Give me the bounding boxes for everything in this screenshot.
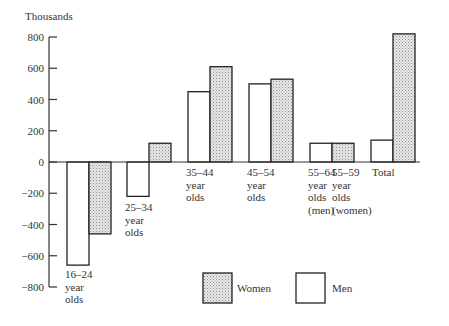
- women-bar: [89, 162, 111, 234]
- men-bar: [310, 143, 332, 162]
- x-category-label: 35–44yearolds: [186, 166, 214, 203]
- legend-label-men: Men: [332, 282, 353, 294]
- y-axis-label: Thousands: [25, 10, 73, 22]
- bars: [67, 34, 415, 265]
- y-tick-label: 800: [28, 31, 45, 43]
- x-category-label: 45–54yearolds: [247, 166, 275, 203]
- x-category-label: 25–34yearolds: [125, 201, 153, 238]
- men-bar: [127, 162, 149, 196]
- y-tick-label: 200: [28, 125, 45, 137]
- women-bar: [149, 143, 171, 162]
- y-tick-label: −400: [21, 219, 44, 231]
- women-bar: [271, 79, 293, 162]
- y-tick-label: −200: [21, 187, 44, 199]
- women-bar: [210, 67, 232, 162]
- y-tick-label: −600: [21, 250, 44, 262]
- y-tick-label: 600: [28, 62, 45, 74]
- women-bar: [332, 143, 354, 162]
- y-tick-label: 0: [39, 156, 45, 168]
- women-bar: [393, 34, 415, 162]
- men-bar: [371, 140, 393, 162]
- legend-swatch-women: [203, 273, 232, 303]
- y-tick-label: −800: [21, 281, 44, 293]
- legend-swatch-men: [296, 273, 325, 303]
- men-bar: [67, 162, 89, 265]
- men-bar: [188, 92, 210, 162]
- men-bar: [249, 84, 271, 162]
- legend-label-women: Women: [237, 282, 271, 294]
- legend: WomenMen: [203, 273, 353, 303]
- y-tick-label: 400: [28, 94, 45, 106]
- x-category-label: 16–24yearolds: [65, 268, 93, 305]
- bar-chart: Thousands 8006004002000−200−400−600−800 …: [0, 0, 449, 326]
- x-category-label: 55–59yearolds(women): [332, 166, 372, 217]
- x-category-label: Total: [372, 166, 394, 178]
